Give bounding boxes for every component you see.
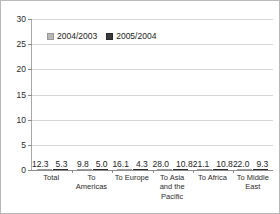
bar-value-label: 28.0 <box>153 160 170 169</box>
bar[interactable] <box>37 169 52 170</box>
x-axis-label: To Africa <box>192 173 232 201</box>
bar-value-label: 5.0 <box>96 160 108 169</box>
bar-value-label: 10.8 <box>216 160 233 169</box>
bar[interactable] <box>117 169 132 170</box>
y-axis-tick-label: 20 <box>17 65 26 74</box>
chart-legend: 2004/20032005/2004 <box>45 32 158 41</box>
y-axis-tick-label: 25 <box>17 40 26 49</box>
y-axis-tick-label: 10 <box>17 115 26 124</box>
x-axis-label: Total <box>31 173 71 201</box>
bar-value-label: 9.3 <box>256 160 268 169</box>
plot-area: 051015202530 12.35.39.85.016.14.328.010.… <box>31 19 273 171</box>
x-axis-label: To Americas <box>71 173 111 201</box>
bar-column[interactable]: 9.8 <box>77 169 92 170</box>
bar-group: 22.09.3 <box>233 19 273 170</box>
bar[interactable] <box>253 169 268 170</box>
x-axis-label: To Europe <box>112 173 152 201</box>
bar[interactable] <box>237 169 252 170</box>
y-axis-tick-label: 15 <box>17 90 26 99</box>
bar-column[interactable]: 4.3 <box>133 169 148 170</box>
bar-column[interactable]: 28.0 <box>157 169 172 170</box>
legend-item[interactable]: 2004/2003 <box>47 32 97 41</box>
bar[interactable] <box>157 169 172 170</box>
bar-value-label: 12.3 <box>32 160 49 169</box>
bar-value-label: 5.3 <box>56 160 68 169</box>
legend-label: 2005/2004 <box>116 32 156 41</box>
bar-column[interactable]: 22.0 <box>237 169 252 170</box>
bar-column[interactable]: 21.1 <box>197 169 212 170</box>
bar[interactable] <box>53 169 68 170</box>
bar[interactable] <box>77 169 92 170</box>
y-axis-tick-label: 0 <box>21 166 26 175</box>
y-axis-tick-label: 5 <box>21 141 26 150</box>
bar-value-label: 4.3 <box>136 160 148 169</box>
x-axis-label: To Asia and the Pacific <box>152 173 192 201</box>
legend-swatch-icon <box>106 33 113 40</box>
bar-column[interactable]: 5.0 <box>93 169 108 170</box>
bar-column[interactable]: 5.3 <box>53 169 68 170</box>
bar-column[interactable]: 9.3 <box>253 169 268 170</box>
bar[interactable] <box>213 169 228 170</box>
bar-column[interactable]: 16.1 <box>117 169 132 170</box>
bar[interactable] <box>93 169 108 170</box>
legend-swatch-icon <box>47 33 54 40</box>
bar-group: 9.85.0 <box>72 19 112 170</box>
bar-value-label: 9.8 <box>77 160 89 169</box>
bar-column[interactable]: 12.3 <box>37 169 52 170</box>
bar-column[interactable]: 10.8 <box>173 169 188 170</box>
legend-item[interactable]: 2005/2004 <box>106 32 156 41</box>
legend-label: 2004/2003 <box>57 32 97 41</box>
y-axis-tick-label: 30 <box>17 15 26 24</box>
x-axis-labels: TotalTo AmericasTo EuropeTo Asia and the… <box>31 173 273 201</box>
bar[interactable] <box>133 169 148 170</box>
bar-value-label: 21.1 <box>193 160 210 169</box>
bar[interactable] <box>197 169 212 170</box>
x-axis-label: To Middle East <box>233 173 273 201</box>
bar-group: 28.010.8 <box>153 19 193 170</box>
bar-column[interactable]: 10.8 <box>213 169 228 170</box>
bar-value-label: 22.0 <box>233 160 250 169</box>
bar-chart: 051015202530 12.35.39.85.016.14.328.010.… <box>0 0 280 214</box>
bar-group: 16.14.3 <box>112 19 152 170</box>
bar[interactable] <box>173 169 188 170</box>
bar-group: 21.110.8 <box>193 19 233 170</box>
bar-value-label: 16.1 <box>112 160 129 169</box>
bar-groups: 12.35.39.85.016.14.328.010.821.110.822.0… <box>32 19 273 170</box>
y-axis-tick <box>28 170 32 171</box>
bar-group: 12.35.3 <box>32 19 72 170</box>
bar-value-label: 10.8 <box>176 160 193 169</box>
